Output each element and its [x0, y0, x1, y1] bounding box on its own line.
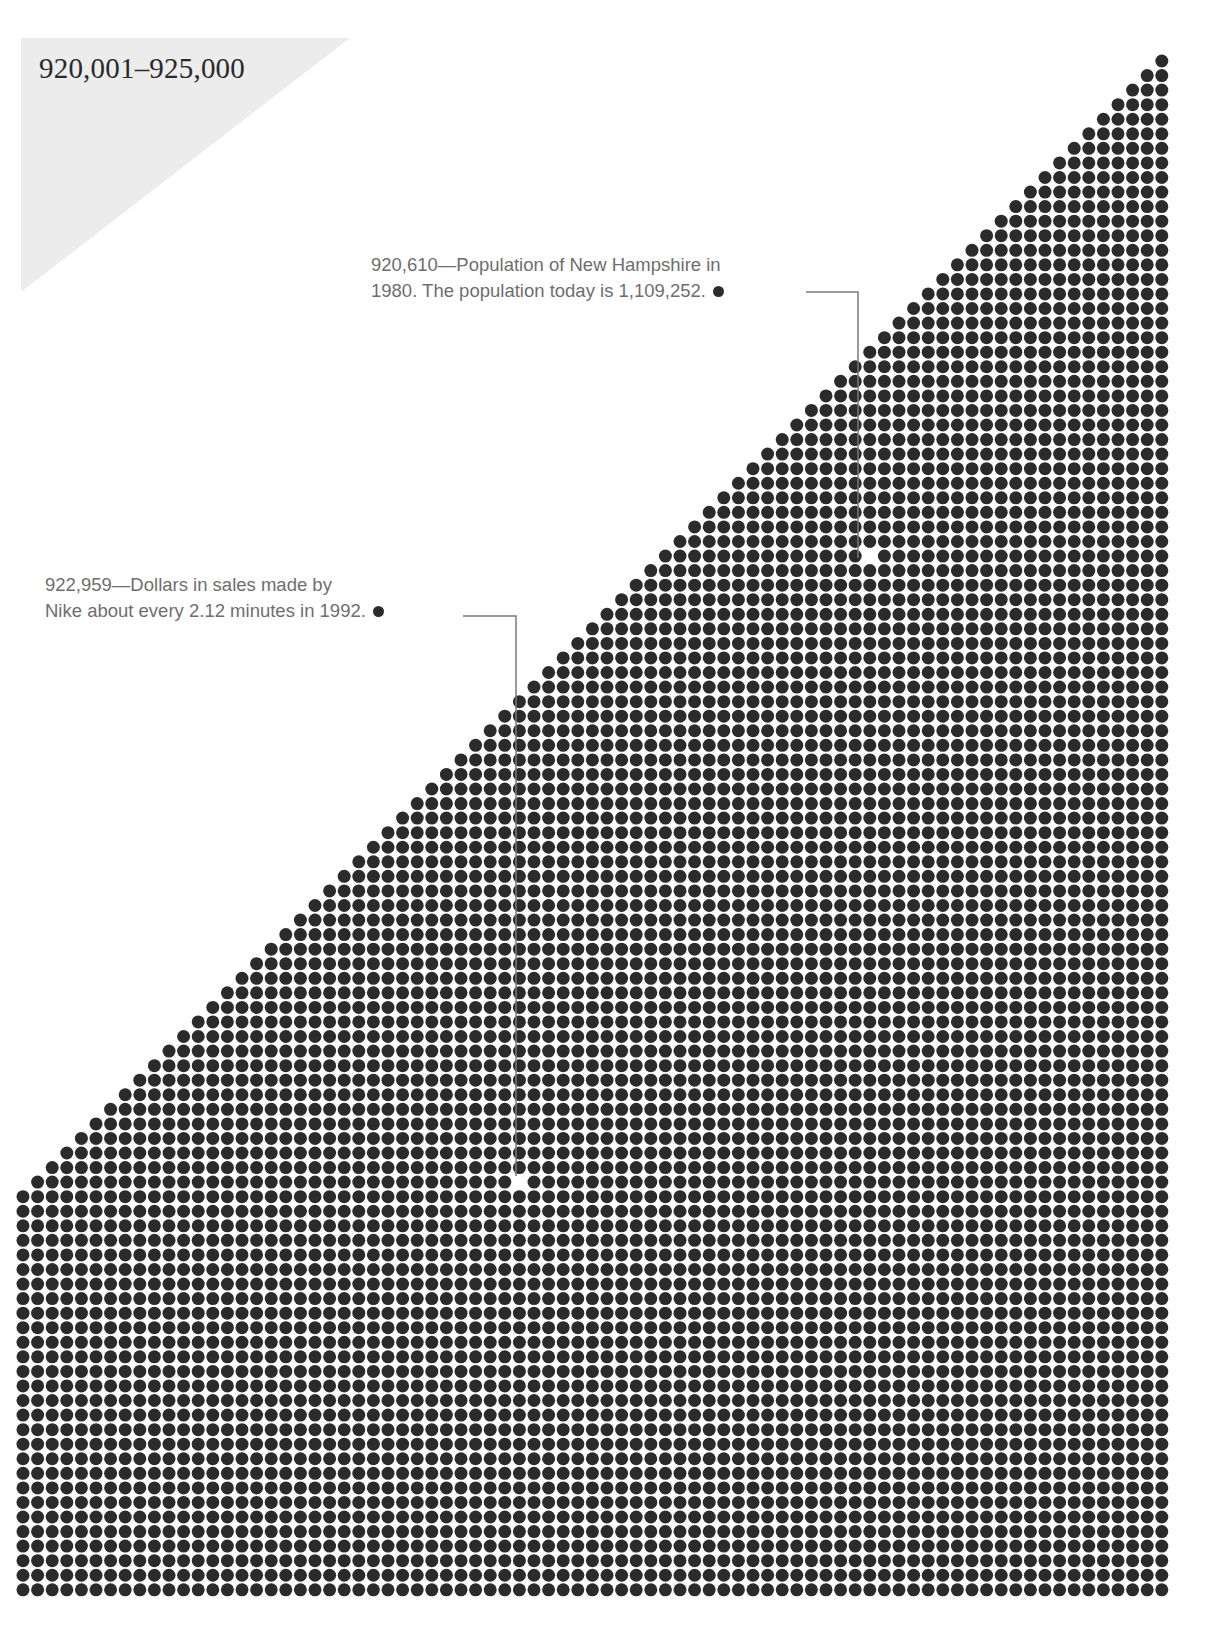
annotation-line-2: 1980. The population today is 1,109,252. — [371, 278, 724, 304]
bullet-dot-icon — [373, 606, 384, 617]
annotation-line-1: 920,610—Population of New Hampshire in — [371, 252, 724, 278]
annotation-line-2: Nike about every 2.12 minutes in 1992. — [45, 598, 384, 624]
dot-matrix-chart — [0, 0, 1215, 1626]
annotation-line-2-text: Nike about every 2.12 minutes in 1992. — [45, 600, 366, 621]
annotation-line-2-text: 1980. The population today is 1,109,252. — [371, 280, 706, 301]
annotation-line-1: 922,959—Dollars in sales made by — [45, 572, 384, 598]
annotation-nike: 922,959—Dollars in sales made by Nike ab… — [45, 572, 384, 624]
bullet-dot-icon — [713, 286, 724, 297]
annotation-new-hampshire: 920,610—Population of New Hampshire in 1… — [371, 252, 724, 304]
